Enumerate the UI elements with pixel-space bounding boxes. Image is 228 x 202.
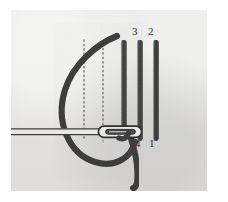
- label-hole-3: 3: [132, 26, 138, 37]
- stitch-diagram-svg: [11, 10, 207, 191]
- figure-root: 3 2 4 1: [0, 0, 228, 202]
- label-hole-1: 1: [149, 138, 155, 149]
- diagram-panel: 3 2 4 1: [11, 10, 207, 191]
- cord-bar-right: [154, 40, 159, 141]
- label-hole-2: 2: [148, 26, 154, 37]
- label-hole-4: 4: [135, 138, 141, 149]
